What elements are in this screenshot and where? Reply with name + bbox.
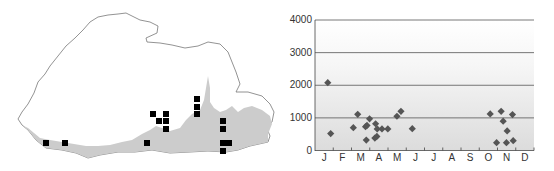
x-tick-label: J: [408, 152, 422, 163]
map-marker: [194, 96, 200, 102]
x-tick-label: M: [354, 152, 368, 163]
map-marker: [220, 126, 226, 132]
chart-canvas: [290, 0, 554, 171]
map-marker: [43, 140, 49, 146]
map-marker: [62, 140, 68, 146]
map-marker: [163, 126, 169, 132]
map-marker: [220, 140, 226, 146]
map-marker: [226, 140, 232, 146]
x-tick-label: F: [335, 152, 349, 163]
y-tick-label: 2000: [286, 79, 312, 90]
distribution-map: [0, 0, 290, 171]
x-tick-label: A: [445, 152, 459, 163]
elevation-by-month-chart: 01000200030004000 JFMAMJJASOND: [290, 0, 554, 171]
x-tick-label: O: [481, 152, 495, 163]
y-tick-label: 1000: [286, 112, 312, 123]
map-marker: [220, 118, 226, 124]
map-marker: [220, 148, 226, 154]
x-tick-label: S: [463, 152, 477, 163]
map-marker: [194, 104, 200, 110]
y-tick-label: 0: [286, 145, 312, 156]
map-marker: [163, 111, 169, 117]
map-marker: [194, 111, 200, 117]
x-tick-label: D: [518, 152, 532, 163]
y-tick-label: 4000: [286, 14, 312, 25]
map-marker: [144, 140, 150, 146]
x-tick-label: J: [427, 152, 441, 163]
x-tick-label: N: [500, 152, 514, 163]
map-marker: [150, 111, 156, 117]
map-marker: [163, 118, 169, 124]
y-tick-label: 3000: [286, 47, 312, 58]
x-tick-label: M: [390, 152, 404, 163]
map-marker: [156, 118, 162, 124]
x-tick-label: J: [317, 152, 331, 163]
x-tick-label: A: [372, 152, 386, 163]
